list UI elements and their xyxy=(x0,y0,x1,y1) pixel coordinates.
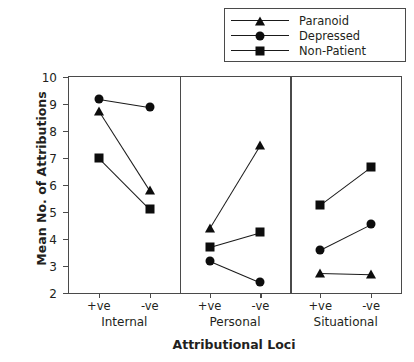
y-axis-tick-label: 4 xyxy=(49,233,57,247)
square-marker-icon xyxy=(367,163,376,172)
data-point xyxy=(256,228,265,237)
x-axis-tick xyxy=(150,293,151,298)
legend: Paranoid Depressed Non-Patient xyxy=(224,8,406,62)
series-segment xyxy=(320,168,372,207)
y-axis-tick-label: 7 xyxy=(49,152,57,166)
plot-area: 1098765432 +ve-ve+ve-ve+ve-ve InternalPe… xyxy=(68,76,402,294)
circle-marker-icon xyxy=(256,31,265,40)
square-marker-icon xyxy=(316,201,325,210)
y-axis-title: Mean No. of Attributions xyxy=(34,79,49,279)
series-segment xyxy=(209,232,260,248)
square-marker-icon xyxy=(145,205,154,214)
square-marker-icon xyxy=(256,46,265,55)
x-axis-group-label: Personal xyxy=(209,315,260,329)
legend-sample-non-patient xyxy=(231,44,289,58)
x-axis-tick xyxy=(210,293,211,298)
square-marker-icon xyxy=(205,243,214,252)
y-axis-tick-label: 6 xyxy=(49,179,57,193)
data-point xyxy=(367,163,376,172)
x-axis-tick-label: -ve xyxy=(141,299,159,313)
x-axis-tick xyxy=(260,293,261,298)
x-axis-tick xyxy=(320,293,321,298)
x-axis-title: Attributional Loci xyxy=(68,337,400,352)
y-axis-tick-label: 3 xyxy=(49,260,57,274)
x-axis-tick xyxy=(371,293,372,298)
data-point xyxy=(145,205,154,214)
x-axis-tick-label: +ve xyxy=(87,299,111,313)
x-axis-group-label: Situational xyxy=(314,315,378,329)
x-axis-tick-label: +ve xyxy=(198,299,222,313)
x-axis-group-label: Internal xyxy=(101,315,147,329)
x-axis-tick-label: -ve xyxy=(252,299,270,313)
legend-label-non-patient: Non-Patient xyxy=(289,44,366,58)
chart-figure: Paranoid Depressed Non-Patient Mean No. … xyxy=(0,0,414,362)
data-point xyxy=(205,243,214,252)
legend-item-non-patient: Non-Patient xyxy=(231,43,399,58)
legend-label-depressed: Depressed xyxy=(289,29,360,43)
series-non-patient xyxy=(69,77,401,293)
triangle-marker-icon xyxy=(255,16,265,25)
x-axis-tick-label: +ve xyxy=(308,299,332,313)
series-segment xyxy=(98,158,150,210)
data-point xyxy=(316,201,325,210)
square-marker-icon xyxy=(94,154,103,163)
y-axis-tick-label: 5 xyxy=(49,206,57,220)
x-axis-tick xyxy=(99,293,100,298)
y-axis-tick-label: 8 xyxy=(49,125,57,139)
legend-item-depressed: Depressed xyxy=(231,28,399,43)
square-marker-icon xyxy=(256,228,265,237)
legend-sample-paranoid xyxy=(231,14,289,28)
legend-sample-depressed xyxy=(231,29,289,43)
y-axis-tick-label: 9 xyxy=(49,98,57,112)
y-axis-tick-label: 2 xyxy=(49,287,57,301)
y-axis-tick-label: 10 xyxy=(42,71,57,85)
legend-item-paranoid: Paranoid xyxy=(231,13,399,28)
legend-label-paranoid: Paranoid xyxy=(289,14,349,28)
y-axis-tick: 2 xyxy=(63,293,69,294)
x-axis-tick-label: -ve xyxy=(362,299,380,313)
data-point xyxy=(94,154,103,163)
